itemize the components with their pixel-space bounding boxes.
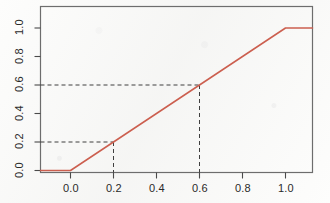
y-tick-label-5: 1.0 bbox=[13, 15, 25, 39]
cdf-line bbox=[41, 28, 313, 171]
y-tick-label-4: 0.8 bbox=[13, 44, 25, 68]
x-tick-label-3: 0.6 bbox=[188, 182, 212, 194]
y-tick-label-2: 0.4 bbox=[13, 101, 25, 125]
y-tick-label-3: 0.6 bbox=[13, 72, 25, 96]
x-tick-label-5: 1.0 bbox=[274, 182, 298, 194]
reference-line-lower bbox=[41, 142, 114, 173]
x-axis-ticks bbox=[71, 173, 286, 179]
reference-line-upper bbox=[41, 85, 200, 173]
y-tick-label-0: 0.0 bbox=[13, 158, 25, 182]
x-tick-label-4: 0.8 bbox=[231, 182, 255, 194]
y-axis-ticks bbox=[35, 28, 41, 171]
plot-canvas bbox=[0, 0, 330, 203]
x-tick-label-0: 0.0 bbox=[59, 182, 83, 194]
x-tick-label-2: 0.4 bbox=[145, 182, 169, 194]
y-tick-label-1: 0.2 bbox=[13, 129, 25, 153]
x-tick-label-1: 0.2 bbox=[102, 182, 126, 194]
plot-frame bbox=[41, 7, 313, 173]
chart-screenshot: 0.0 0.2 0.4 0.6 0.8 1.0 0.0 0.2 0.4 0.6 … bbox=[0, 0, 330, 203]
